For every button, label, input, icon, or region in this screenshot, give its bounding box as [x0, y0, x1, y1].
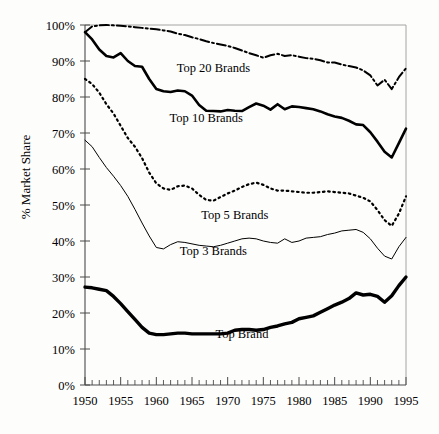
y-tick-label: 80% — [52, 91, 75, 105]
series-label-top-20-brands: Top 20 Brands — [177, 61, 251, 75]
y-tick-label: 100% — [46, 19, 75, 33]
y-tick-label: 10% — [52, 343, 75, 357]
y-tick-label: 70% — [52, 127, 75, 141]
x-tick-label: 1950 — [73, 394, 98, 408]
y-axis-title-text: % Market Share — [18, 135, 33, 220]
chart-page: 0%10%20%30%40%50%60%70%80%90%100% 195019… — [0, 0, 439, 434]
y-tick-label: 90% — [52, 55, 75, 69]
x-axis-tick-labels: 1950195519601965197019751980198519901995 — [73, 394, 419, 408]
y-tick-label: 60% — [52, 163, 75, 177]
series-line-top-20-brands — [85, 25, 406, 89]
series-inline-labels: Top 20 BrandsTop 10 BrandsTop 5 BrandsTo… — [170, 61, 270, 341]
series-line-top-brand — [85, 277, 406, 335]
y-tick-label: 30% — [52, 271, 75, 285]
x-tick-label: 1955 — [108, 394, 133, 408]
series-label-top-5-brands: Top 5 Brands — [201, 208, 268, 222]
x-tick-label: 1995 — [394, 394, 419, 408]
x-tick-label: 1960 — [144, 394, 169, 408]
y-tick-label: 50% — [52, 199, 75, 213]
y-tick-label: 0% — [58, 379, 75, 393]
x-tick-label: 1970 — [215, 394, 240, 408]
x-tick-label: 1975 — [251, 394, 276, 408]
y-tick-label: 20% — [52, 307, 75, 321]
series-label-top-brand: Top Brand — [215, 327, 269, 341]
series-label-top-10-brands: Top 10 Brands — [170, 111, 244, 125]
x-tick-label: 1990 — [358, 394, 383, 408]
market-share-line-chart: 0%10%20%30%40%50%60%70%80%90%100% 195019… — [0, 0, 439, 434]
series-line-top-5-brands — [85, 79, 406, 226]
series-label-top-3-brands: Top 3 Brands — [180, 244, 247, 258]
x-tick-label: 1965 — [180, 394, 205, 408]
x-tick-label: 1985 — [322, 394, 347, 408]
y-axis-tick-labels: 0%10%20%30%40%50%60%70%80%90%100% — [46, 19, 75, 393]
y-tick-label: 40% — [52, 235, 75, 249]
y-axis-title: % Market Share — [18, 135, 33, 220]
series-line-top-3-brands — [85, 140, 406, 259]
x-tick-label: 1980 — [287, 394, 312, 408]
